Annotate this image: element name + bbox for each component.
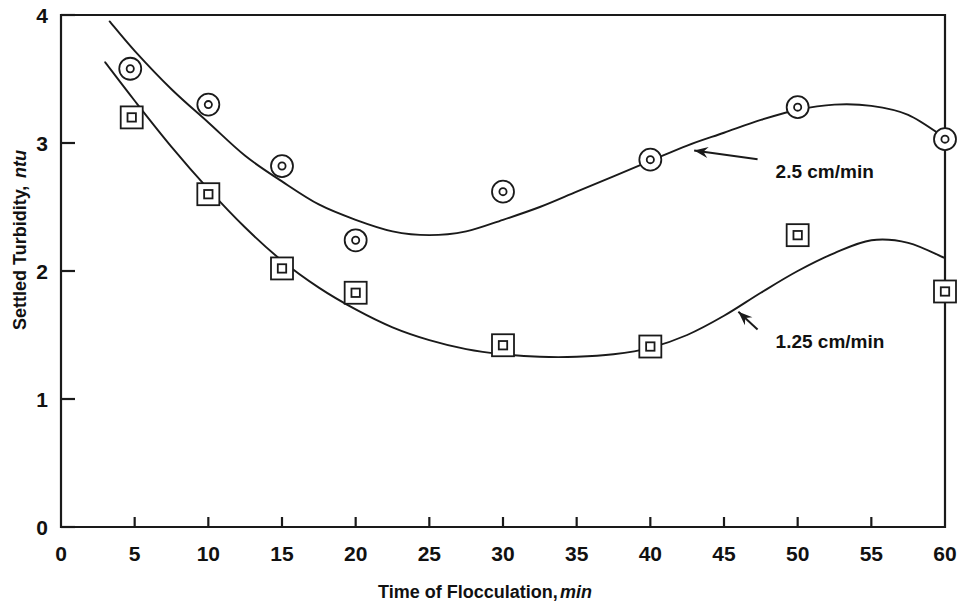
square-marker-dot: [941, 287, 949, 295]
data-point-marker: [271, 257, 293, 279]
scatter-plot: 051015202530354045505560 01234 2.5 cm/mi…: [0, 0, 963, 611]
series-curve-1: [110, 21, 945, 235]
square-marker-dot: [278, 264, 286, 272]
data-point-marker: [345, 229, 367, 251]
y-axis-ticks: [61, 15, 75, 527]
annotation-1: 2.5 cm/min: [694, 147, 874, 182]
series-curves: [105, 21, 945, 357]
data-point-marker: [121, 106, 143, 128]
x-tick-label: 15: [270, 542, 294, 565]
data-point-marker: [492, 181, 514, 203]
x-tick-label: 50: [786, 542, 809, 565]
square-marker-dot: [793, 231, 801, 239]
chart-figure: 051015202530354045505560 01234 2.5 cm/mi…: [0, 0, 963, 611]
axis-frame: [61, 15, 945, 527]
data-point-marker: [197, 94, 219, 116]
y-tick-label: 2: [36, 260, 48, 283]
x-tick-label: 25: [418, 542, 442, 565]
circle-marker-dot: [127, 65, 134, 72]
x-tick-label: 60: [933, 542, 956, 565]
y-axis-title-units: ntu: [10, 150, 30, 178]
y-axis-title: Settled Turbidity,: [10, 186, 30, 330]
y-tick-label: 0: [36, 516, 48, 539]
x-tick-label: 55: [860, 542, 884, 565]
annotation-2: 1.25 cm/min: [738, 312, 884, 353]
annotation-label: 1.25 cm/min: [776, 331, 885, 352]
x-tick-label: 35: [565, 542, 589, 565]
y-tick-label: 4: [36, 4, 48, 27]
x-tick-label: 20: [344, 542, 367, 565]
square-marker-dot: [351, 289, 359, 297]
x-axis-title: Time of Flocculation,: [378, 582, 558, 602]
square-marker-dot: [646, 342, 654, 350]
data-point-marker: [787, 224, 809, 246]
series-annotations: 2.5 cm/min1.25 cm/min: [694, 147, 884, 352]
circle-marker-dot: [647, 156, 654, 163]
circle-marker-dot: [352, 237, 359, 244]
y-tick-label: 3: [36, 132, 48, 155]
y-axis-tick-labels: 01234: [36, 4, 48, 539]
data-point-marker: [492, 334, 514, 356]
x-axis-ticks: [135, 517, 872, 527]
axes: [61, 15, 945, 527]
circle-marker-dot: [941, 136, 948, 143]
data-point-marker: [197, 183, 219, 205]
annotation-label: 2.5 cm/min: [776, 161, 874, 182]
square-marker-dot: [128, 113, 136, 121]
circle-marker-dot: [499, 188, 506, 195]
x-axis-title-units: min: [560, 582, 592, 602]
x-tick-label: 5: [129, 542, 141, 565]
square-marker-dot: [204, 190, 212, 198]
x-tick-label: 45: [712, 542, 736, 565]
circle-marker-dot: [278, 162, 285, 169]
data-point-marker: [787, 96, 809, 118]
x-tick-label: 0: [55, 542, 67, 565]
circle-marker-dot: [794, 104, 801, 111]
data-point-marker: [934, 280, 956, 302]
data-point-marker: [934, 128, 956, 150]
x-tick-label: 30: [491, 542, 514, 565]
x-tick-label: 40: [639, 542, 662, 565]
x-tick-label: 10: [197, 542, 220, 565]
y-tick-label: 1: [36, 388, 48, 411]
data-point-marker: [345, 282, 367, 304]
data-point-marker: [639, 149, 661, 171]
x-axis-tick-labels: 051015202530354045505560: [55, 542, 957, 565]
data-point-marker: [271, 155, 293, 177]
data-point-marker: [119, 58, 141, 80]
y-axis-title-group: Settled Turbidity, ntu: [10, 150, 30, 330]
circle-marker-dot: [205, 101, 212, 108]
data-point-marker: [639, 336, 661, 358]
square-marker-dot: [499, 341, 507, 349]
